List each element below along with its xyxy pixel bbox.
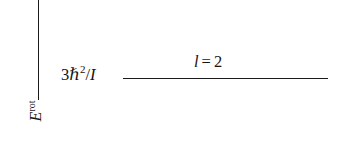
- quantum-number-value: 2: [214, 52, 222, 71]
- rotational-energy-level-figure: Erot 3ℏ2/I l=2: [0, 0, 339, 150]
- energy-coefficient: 3: [61, 65, 69, 84]
- energy-axis-label-base: E: [27, 112, 44, 122]
- equals-sign: =: [199, 52, 214, 71]
- energy-axis-label: Erot: [26, 74, 44, 148]
- quantum-number-symbol: l: [194, 52, 199, 71]
- moment-of-inertia-symbol: I: [90, 65, 96, 84]
- energy-level-line: [123, 78, 328, 79]
- hbar-symbol: ℏ: [69, 65, 80, 84]
- quantum-number-label: l=2: [194, 52, 222, 72]
- energy-axis-label-superscript: rot: [26, 100, 37, 111]
- level-energy-value: 3ℏ2/I: [61, 59, 95, 85]
